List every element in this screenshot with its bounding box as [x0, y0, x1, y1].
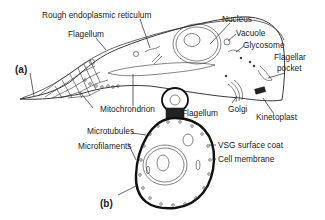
- label-kinetoplast: Kinetoplast: [256, 112, 298, 122]
- label-glycosome: Glycosome: [243, 40, 285, 50]
- label-vacuole: Vacuole: [236, 28, 266, 38]
- trypanosome-diagram: (a) Rough endoplasmic reticulum Flagellu…: [0, 0, 325, 220]
- label-flagellum-a: Flagellum: [68, 29, 104, 39]
- label-flagellar-pocket-2: pocket: [277, 63, 302, 73]
- label-microfilaments: Microfilaments: [78, 141, 131, 151]
- panel-b-label: (b): [100, 198, 113, 209]
- label-rough-er: Rough endoplasmic reticulum: [42, 10, 151, 20]
- label-vsg-surface-coat: VSG surface coat: [218, 140, 284, 150]
- label-mitochondrion: Mitochrondrion: [100, 104, 155, 114]
- label-nucleus: Nucleus: [222, 14, 252, 24]
- label-golgi: Golgi: [228, 104, 248, 114]
- label-cell-membrane: Cell membrane: [218, 154, 275, 164]
- label-microtubules: Microtubules: [87, 126, 134, 136]
- label-flagellum-b: Flagellum: [182, 108, 218, 118]
- panel-a-label: (a): [15, 64, 27, 75]
- label-flagellar-pocket-1: Flagellar: [274, 52, 306, 62]
